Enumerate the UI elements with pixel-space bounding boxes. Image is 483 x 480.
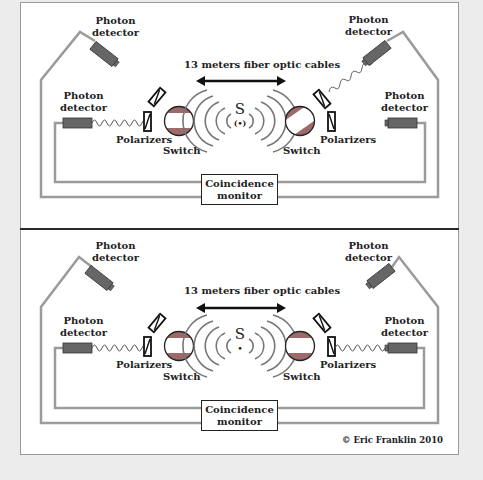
polarizer-right-vertical	[328, 337, 335, 356]
detector-upper-left	[90, 41, 121, 68]
label-polarizers-right: Polarizers	[320, 359, 376, 371]
polarizer-left-tilted	[149, 314, 166, 332]
source-glyph: (•)	[232, 117, 248, 129]
photon-path-left	[92, 345, 151, 351]
label-switch-left: Switch	[163, 371, 201, 383]
label-polarizers-left: Polarizers	[116, 359, 172, 371]
coincidence-monitor: Coincidence monitor	[201, 174, 278, 205]
label-detector-upper-left: Photon detector	[92, 15, 139, 39]
detector-upper-left	[85, 265, 116, 292]
detector-lower-left	[63, 343, 92, 353]
label-source: S	[230, 100, 250, 118]
polarizer-left-vertical	[144, 337, 151, 356]
coincidence-monitor-label: Coincidence monitor	[205, 178, 274, 202]
source-glyph: •	[232, 342, 248, 354]
detector-lower-right	[385, 118, 417, 128]
polarizer-left-vertical	[144, 112, 151, 131]
detector-lower-left	[63, 118, 92, 128]
label-cable-length: 13 meters fiber optic cables	[184, 285, 340, 297]
polarizer-right-vertical	[328, 112, 335, 131]
label-detector-upper-left: Photon detector	[92, 240, 139, 264]
label-detector-lower-left: Photon detector	[60, 90, 107, 114]
label-detector-lower-right: Photon detector	[381, 315, 428, 339]
copyright-credit: © Eric Franklin 2010	[342, 435, 443, 445]
coincidence-monitor-label: Coincidence monitor	[205, 404, 274, 428]
label-detector-lower-left: Photon detector	[60, 315, 107, 339]
switch-right	[273, 95, 326, 147]
label-switch-right: Switch	[283, 145, 321, 157]
polarizer-right-tilted	[314, 314, 331, 332]
label-source: S	[230, 325, 250, 343]
switch-right	[281, 330, 321, 363]
polarizer-right-tilted	[314, 90, 331, 108]
panel-bottom: Photon detector Photon detector Polarize…	[0, 229, 483, 456]
coincidence-monitor: Coincidence monitor	[201, 400, 278, 431]
label-detector-upper-right: Photon detector	[345, 240, 392, 264]
photon-path-right	[335, 345, 385, 351]
label-detector-lower-right: Photon detector	[381, 90, 428, 114]
panel-top: Photon detector Photon detector Polarize…	[0, 0, 483, 227]
label-detector-upper-right: Photon detector	[345, 14, 392, 38]
detector-lower-right	[385, 343, 417, 353]
polarizer-left-tilted	[149, 88, 166, 106]
photon-path-left	[92, 120, 151, 126]
label-polarizers-right: Polarizers	[320, 134, 376, 146]
label-switch-right: Switch	[283, 371, 321, 383]
distance-arrow	[196, 76, 286, 86]
label-switch-left: Switch	[163, 145, 201, 157]
distance-arrow	[196, 303, 286, 313]
label-cable-length: 13 meters fiber optic cables	[184, 59, 340, 71]
detector-upper-right	[365, 263, 396, 290]
detector-upper-right	[361, 40, 392, 67]
